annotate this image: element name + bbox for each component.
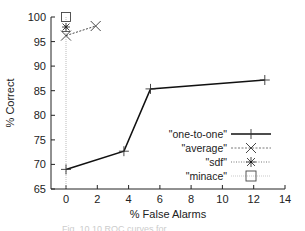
svg-text:2: 2 [94, 193, 100, 205]
svg-text:85: 85 [34, 85, 46, 97]
legend-item-average: "average" [182, 142, 271, 154]
x-ticks [66, 185, 285, 189]
svg-text:4: 4 [126, 193, 132, 205]
svg-text:"average": "average" [182, 142, 228, 154]
series-average [61, 21, 101, 41]
svg-text:75: 75 [34, 134, 46, 146]
svg-text:14: 14 [279, 193, 291, 205]
svg-text:80: 80 [34, 109, 46, 121]
svg-text:"one-to-one": "one-to-one" [169, 128, 228, 140]
chart-figure: 65 70 75 80 85 90 95 100 0 2 4 6 8 10 12… [0, 0, 305, 231]
svg-text:8: 8 [188, 193, 194, 205]
series-sdf [62, 23, 70, 31]
svg-text:10: 10 [216, 193, 228, 205]
legend-item-one-to-one: "one-to-one" [169, 128, 271, 140]
svg-text:100: 100 [28, 11, 46, 23]
y-ticks [51, 17, 55, 189]
svg-text:95: 95 [34, 36, 46, 48]
svg-text:90: 90 [34, 60, 46, 72]
svg-text:"sdf": "sdf" [206, 156, 228, 168]
legend: "one-to-one" "average" "sdf" "minace" [169, 128, 271, 182]
figure-caption: Fig. 10.10 ROC curves for ... [62, 224, 177, 231]
svg-text:"minace": "minace" [186, 170, 228, 182]
svg-text:12: 12 [248, 193, 260, 205]
legend-item-minace: "minace" [186, 170, 271, 182]
roc-chart: 65 70 75 80 85 90 95 100 0 2 4 6 8 10 12… [0, 0, 305, 231]
series-one-to-one [61, 75, 270, 174]
y-axis-label: % Correct [4, 79, 16, 128]
x-tick-labels: 0 2 4 6 8 10 12 14 [63, 193, 291, 205]
y-tick-labels: 65 70 75 80 85 90 95 100 [28, 11, 46, 195]
svg-text:0: 0 [63, 193, 69, 205]
svg-text:70: 70 [34, 158, 46, 170]
legend-item-sdf: "sdf" [206, 156, 271, 168]
svg-text:6: 6 [157, 193, 163, 205]
svg-text:65: 65 [34, 183, 46, 195]
x-axis-label: % False Alarms [130, 208, 207, 220]
